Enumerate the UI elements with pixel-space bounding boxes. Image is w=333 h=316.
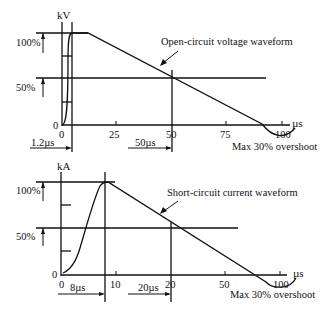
current-half-time-label: 20µs	[138, 282, 159, 293]
current-origin-y: 0	[52, 269, 57, 280]
voltage-overshoot-note: Max 30% overshoot	[232, 141, 317, 152]
voltage-waveform-curve	[62, 33, 295, 136]
voltage-front-time-label: 1.2µs	[31, 137, 54, 148]
voltage-waveform-diagram: kV µs 100% 50% 0 0 25 50 75 100 O	[16, 9, 317, 152]
current-tick-0: 0	[59, 279, 64, 290]
current-100-label: 100%	[16, 185, 41, 196]
current-x-unit: µs	[293, 267, 304, 279]
voltage-100-label: 100%	[16, 37, 41, 48]
current-50-label: 50%	[16, 231, 36, 242]
voltage-y-unit: kV	[57, 9, 71, 21]
current-front-time-label: 8µs	[70, 282, 85, 293]
voltage-half-time-label: 50µs	[135, 137, 156, 148]
current-tick-20: 20	[165, 279, 176, 290]
current-tick-50: 50	[219, 279, 230, 290]
current-callout-arrow	[164, 201, 178, 211]
combination-wave-diagram: kV µs 100% 50% 0 0 25 50 75 100 O	[0, 0, 333, 316]
voltage-waveform-title: Open-circuit voltage waveform	[161, 36, 293, 47]
current-overshoot-note: Max 30% overshoot	[230, 289, 315, 300]
voltage-tick-0: 0	[59, 129, 64, 140]
voltage-origin-y: 0	[53, 120, 58, 131]
current-waveform-title: Short-circuit current waveform	[167, 187, 298, 198]
current-tick-10: 10	[110, 279, 121, 290]
voltage-tick-25: 25	[109, 129, 120, 140]
voltage-x-unit: µs	[292, 117, 303, 129]
voltage-tick-75: 75	[220, 129, 231, 140]
voltage-50-label: 50%	[16, 82, 36, 93]
voltage-callout-arrow	[163, 51, 178, 63]
voltage-tick-50: 50	[166, 129, 177, 140]
current-y-unit: kA	[57, 160, 71, 172]
current-waveform-diagram: kA µs 100% 50% 0 0 10 20 50 100	[16, 160, 315, 302]
